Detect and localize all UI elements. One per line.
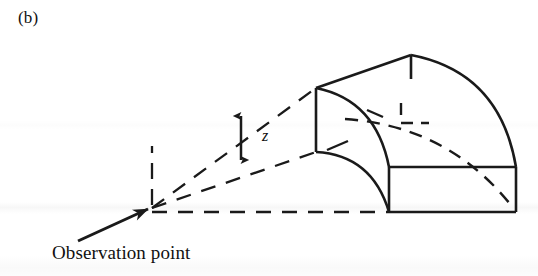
sight-line-upper bbox=[152, 88, 316, 208]
sight-line-lower bbox=[152, 152, 316, 208]
observation-pointer-arrow bbox=[78, 209, 148, 241]
z-dimension-label: z bbox=[262, 128, 268, 144]
right-angle-marker bbox=[401, 103, 429, 123]
solid-top-outer-arc bbox=[411, 55, 516, 167]
panel-label: (b) bbox=[18, 9, 38, 26]
right-angle-marker-group bbox=[401, 103, 429, 123]
figure-panel-b: (b) Observation point z bbox=[0, 0, 538, 276]
arc-tick-lower bbox=[327, 141, 348, 150]
hidden-interior-arc bbox=[345, 119, 514, 209]
hidden-edges-group bbox=[345, 119, 514, 209]
figure-drawing-canvas bbox=[0, 0, 538, 276]
observation-point-label: Observation point bbox=[52, 243, 190, 262]
observation-pointer-group bbox=[78, 209, 148, 241]
solid-upper-concave-arc bbox=[316, 88, 389, 167]
solid-side-concave-arc bbox=[316, 152, 389, 212]
arc-tick-group bbox=[327, 141, 348, 150]
arc-tick-upper bbox=[367, 110, 383, 117]
arc-tick-group bbox=[367, 110, 383, 117]
solid-top-ridge-left bbox=[316, 55, 411, 88]
sight-lines-group bbox=[152, 88, 389, 212]
